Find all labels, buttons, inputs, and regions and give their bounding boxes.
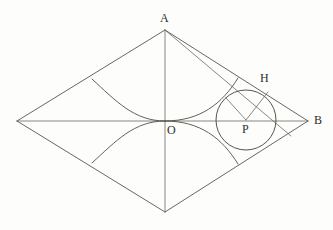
radius-p-to-h (246, 92, 268, 120)
radius-p-to-tangent (226, 98, 246, 120)
label-point-b: B (314, 114, 322, 126)
edge-bottom-right (165, 121, 308, 212)
segment-a-to-h (165, 30, 291, 136)
label-point-p: P (242, 123, 249, 135)
geometry-canvas (0, 0, 333, 230)
arc-upper-left (92, 79, 165, 121)
edge-left-bottom (17, 121, 165, 212)
label-point-h: H (260, 72, 269, 84)
label-point-a: A (160, 12, 169, 24)
geometry-figure: A B O P H (0, 0, 333, 230)
label-point-o: O (167, 124, 176, 136)
edge-a-right (165, 30, 308, 121)
arc-lower-left (92, 121, 165, 163)
edge-a-left (17, 30, 165, 121)
